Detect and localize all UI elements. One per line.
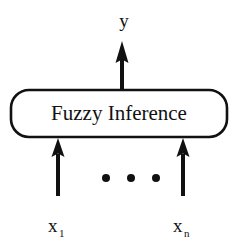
input-label-xn-base: x — [173, 215, 183, 236]
ellipsis-dot — [152, 174, 160, 182]
diagram-canvas: Fuzzy Inference y x 1 x n — [0, 0, 238, 241]
output-label-y: y — [119, 10, 129, 31]
input-label-xn-subscript: n — [184, 227, 190, 239]
output-arrow — [116, 41, 129, 90]
input-arrow-1 — [52, 138, 65, 196]
ellipsis-dot — [127, 174, 135, 182]
input-label-x1-subscript: 1 — [59, 227, 65, 239]
ellipsis-dot — [102, 174, 110, 182]
fuzzy-inference-diagram: Fuzzy Inference y x 1 x n — [0, 0, 238, 241]
input-label-x1-base: x — [48, 215, 58, 236]
input-label-x1: x 1 — [48, 215, 65, 239]
fuzzy-inference-block-label: Fuzzy Inference — [51, 101, 187, 125]
input-label-xn: x n — [173, 215, 190, 239]
input-arrow-n — [177, 138, 190, 196]
